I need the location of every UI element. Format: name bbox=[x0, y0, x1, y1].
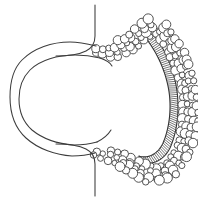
cell-circle bbox=[182, 152, 192, 162]
cell-circle bbox=[184, 60, 193, 69]
cell-circle bbox=[99, 46, 106, 53]
cell-circle bbox=[114, 155, 120, 161]
cell-circle bbox=[179, 72, 185, 78]
cell-circle bbox=[98, 155, 104, 161]
cell-circle bbox=[162, 20, 171, 29]
cross-section-diagram: Histological cross-section line drawing bbox=[0, 0, 198, 201]
figure-root: Histological cross-section line drawing bbox=[0, 0, 198, 201]
cell-circle bbox=[104, 157, 112, 165]
cell-circle bbox=[191, 78, 197, 84]
cell-circle bbox=[154, 175, 164, 185]
cell-circle bbox=[195, 109, 198, 116]
cell-circle bbox=[168, 29, 174, 35]
cell-circle bbox=[143, 14, 153, 24]
cell-circle bbox=[189, 70, 195, 76]
cell-circle bbox=[192, 122, 198, 132]
cell-circle bbox=[191, 85, 198, 94]
cell-circle bbox=[175, 40, 183, 48]
cell-circle bbox=[172, 171, 179, 178]
cell-circle bbox=[115, 162, 125, 172]
cell-circle bbox=[179, 163, 185, 169]
cell-circle bbox=[188, 138, 198, 148]
cell-circle bbox=[193, 94, 198, 101]
cell-circle bbox=[115, 149, 121, 155]
